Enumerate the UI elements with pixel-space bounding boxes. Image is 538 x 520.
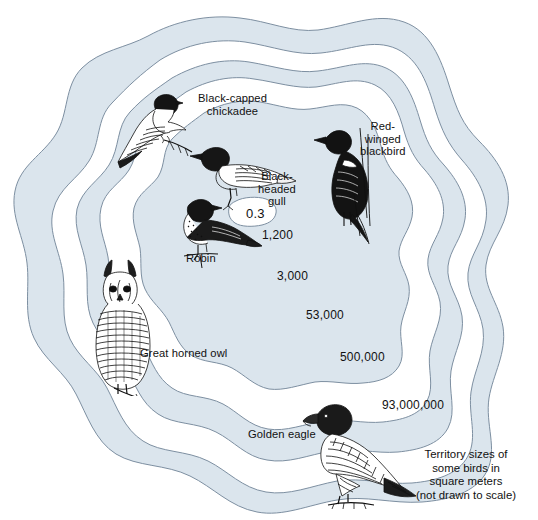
- value-93000000: 93,000,000: [382, 398, 444, 412]
- value-3000: 3,000: [277, 269, 308, 283]
- label-robin: Robin: [186, 252, 216, 265]
- label-red-winged-blackbird: Red- winged blackbird: [360, 120, 406, 158]
- value-0-3: 0.3: [246, 206, 265, 221]
- figure-caption: Territory sizes of some birds in square …: [398, 448, 534, 502]
- value-1200: 1,200: [262, 228, 293, 242]
- label-great-horned-owl: Great horned owl: [140, 347, 227, 360]
- contour-bands: [0, 0, 538, 520]
- bird-territory-figure: Black-capped chickadee Black- headed gul…: [0, 0, 538, 520]
- value-500000: 500,000: [340, 350, 385, 364]
- label-black-headed-gull: Black- headed gull: [258, 170, 296, 208]
- bird-illustration-owl: [84, 256, 168, 396]
- bird-illustration-robin: [170, 190, 262, 270]
- label-black-capped-chickadee: Black-capped chickadee: [198, 92, 267, 117]
- label-golden-eagle: Golden eagle: [248, 428, 316, 441]
- value-53000: 53,000: [306, 308, 344, 322]
